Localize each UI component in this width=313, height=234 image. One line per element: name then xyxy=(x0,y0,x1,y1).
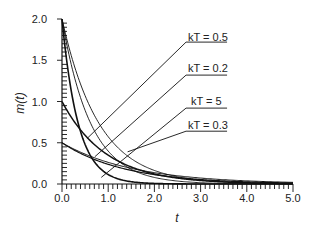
data-curve xyxy=(62,19,293,184)
annotation-kt-0-2: kT = 0.2 xyxy=(188,62,228,74)
x-axis xyxy=(62,184,293,192)
x-tick-label: 2.0 xyxy=(147,192,162,204)
annotation-kt-0-5: kT = 0.5 xyxy=(188,31,228,43)
data-curve xyxy=(62,143,293,183)
y-tick-label: 1.0 xyxy=(32,96,47,108)
x-tick-label: 4.0 xyxy=(239,192,254,204)
x-axis-title: t xyxy=(175,211,179,225)
annotation-kt-5: kT = 5 xyxy=(191,95,222,107)
y-axis xyxy=(57,19,67,184)
chart: 0.0 0.5 1.0 1.5 2.0 0.0 1.0 2.0 3.0 4.0 … xyxy=(0,0,313,234)
y-tick-label: 0.5 xyxy=(32,137,47,149)
data-curve xyxy=(62,19,293,184)
x-tick-label: 0.0 xyxy=(54,192,69,204)
y-axis-title: m(t) xyxy=(13,92,27,113)
y-tick-label: 1.5 xyxy=(32,54,47,66)
data-curves xyxy=(62,19,293,184)
data-curve xyxy=(62,102,293,184)
annotation-leader-line xyxy=(128,131,227,152)
x-tick-label: 1.0 xyxy=(101,192,116,204)
y-tick-label: 2.0 xyxy=(32,13,47,25)
x-tick-label: 5.0 xyxy=(285,192,300,204)
y-tick-label: 0.0 xyxy=(32,178,47,190)
annotation-kt-0-3: kT = 0.3 xyxy=(188,119,228,131)
x-tick-label: 3.0 xyxy=(193,192,208,204)
